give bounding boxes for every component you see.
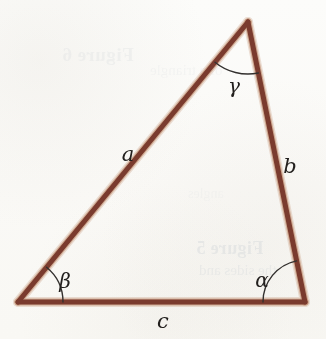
- triangle-sides-group: [18, 22, 305, 302]
- side-label-b: b: [283, 154, 296, 178]
- side-label-a: a: [122, 142, 135, 166]
- stroke-bleed-group: [18, 22, 305, 302]
- figure-canvas: Figure 6 of a triangle angles Figure 5 t…: [0, 0, 326, 339]
- triangle-diagram: a b c α β γ: [0, 0, 326, 339]
- angle-label-alpha: α: [255, 268, 269, 292]
- angle-label-beta: β: [58, 269, 71, 293]
- stroke-halo-group: [18, 22, 305, 302]
- angle-label-gamma: γ: [228, 74, 240, 98]
- side-label-c: c: [157, 309, 169, 333]
